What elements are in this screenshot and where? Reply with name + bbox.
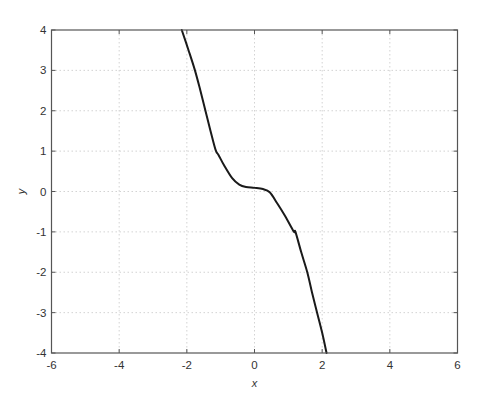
- x-tick-label: -2: [182, 359, 192, 371]
- x-tick-labels: -6-4-20246: [46, 359, 460, 371]
- y-tick-label: 1: [40, 145, 46, 157]
- y-tick-label: -4: [36, 347, 47, 359]
- y-axis-label: y: [15, 187, 27, 195]
- x-tick-label: -6: [46, 359, 56, 371]
- x-tick-label: 6: [454, 359, 460, 371]
- y-tick-label: 0: [40, 186, 46, 198]
- chart: -6-4-20246 -4-3-2-101234 x y: [0, 0, 480, 405]
- y-tick-label: 4: [40, 24, 47, 36]
- y-tick-label: -2: [36, 266, 46, 278]
- y-tick-label: -3: [36, 307, 46, 319]
- x-tick-label: -4: [114, 359, 125, 371]
- x-tick-label: 0: [251, 359, 257, 371]
- y-tick-labels: -4-3-2-101234: [36, 24, 47, 359]
- y-tick-label: 3: [40, 64, 46, 76]
- y-tick-label: 2: [40, 105, 46, 117]
- y-tick-label: -1: [36, 226, 46, 238]
- x-axis-label: x: [251, 377, 258, 389]
- x-tick-label: 2: [319, 359, 325, 371]
- x-tick-label: 4: [387, 359, 394, 371]
